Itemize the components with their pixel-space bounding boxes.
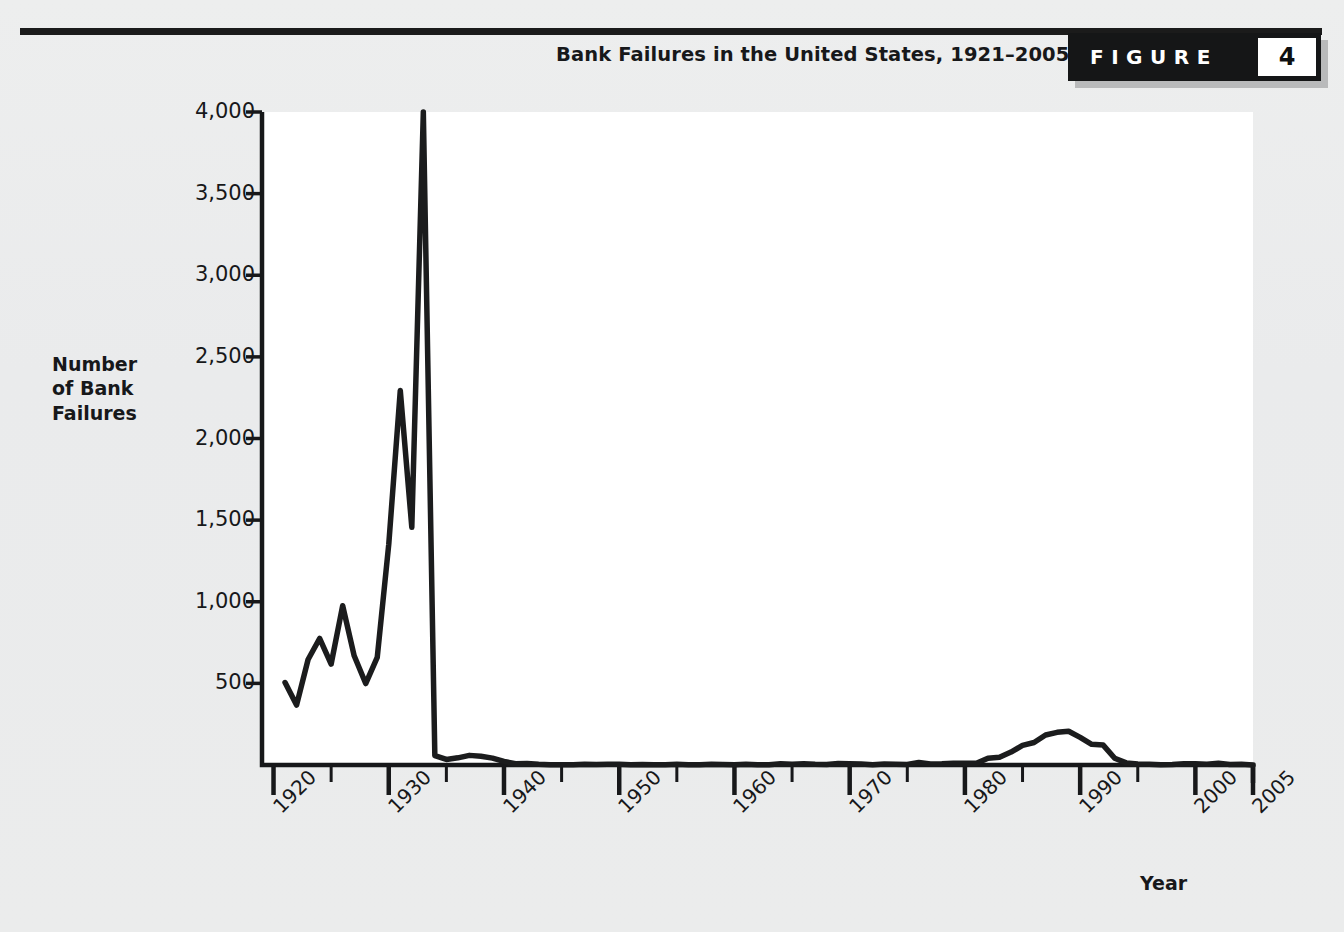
plot-svg [0, 0, 1344, 932]
axis-spines [262, 112, 1253, 783]
data-line [285, 112, 1253, 765]
chart: Number of Bank Failures Year 5001,0001,5… [0, 0, 1344, 932]
